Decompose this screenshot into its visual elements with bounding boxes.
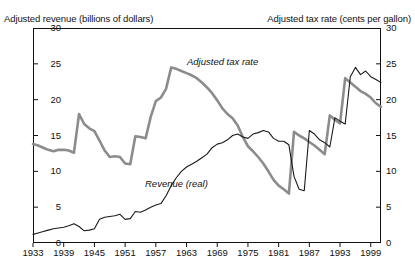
fuel-tax-chart: Adjusted revenue (billions of dollars) A…	[0, 0, 415, 271]
left-axis-tick-label: 10	[50, 165, 61, 176]
right-axis-tick-label: 5	[386, 201, 391, 212]
x-axis-tick-label: 1933	[22, 247, 43, 258]
right-axis-ticks	[376, 64, 381, 207]
x-axis-tick-label: 1987	[299, 247, 320, 258]
right-axis-tick-label: 10	[386, 165, 397, 176]
tax-rate-line	[33, 67, 381, 193]
right-axis-tick-label: 30	[386, 22, 397, 33]
x-axis-tick-label: 1957	[145, 247, 166, 258]
x-axis-tick-label: 1969	[207, 247, 228, 258]
x-axis-tick-label: 1939	[53, 247, 74, 258]
right-axis-tick-label: 0	[386, 237, 391, 248]
left-axis-tick-label: 25	[50, 58, 61, 69]
left-axis-ticks	[33, 64, 38, 207]
x-axis-tick-label: 1945	[84, 247, 105, 258]
x-axis-tick-label: 1999	[360, 247, 381, 258]
right-axis-tick-label: 20	[386, 94, 397, 105]
left-axis-tick-label: 15	[50, 130, 61, 141]
tax-rate-series-label: Adjusted tax rate	[187, 56, 258, 67]
x-axis-tick-label: 1963	[176, 247, 197, 258]
revenue-series-label: Revenue (real)	[145, 178, 208, 189]
x-axis-tick-label: 1993	[329, 247, 350, 258]
x-axis-tick-label: 1951	[115, 247, 136, 258]
right-axis-tick-label: 25	[386, 58, 397, 69]
chart-canvas	[0, 0, 415, 271]
left-axis-tick-label: 5	[56, 201, 61, 212]
left-axis-tick-label: 20	[50, 94, 61, 105]
x-axis-tick-label: 1975	[237, 247, 258, 258]
left-axis-tick-label: 30	[50, 22, 61, 33]
right-axis-tick-label: 15	[386, 130, 397, 141]
x-axis-tick-label: 1981	[268, 247, 289, 258]
revenue-line	[33, 67, 381, 234]
